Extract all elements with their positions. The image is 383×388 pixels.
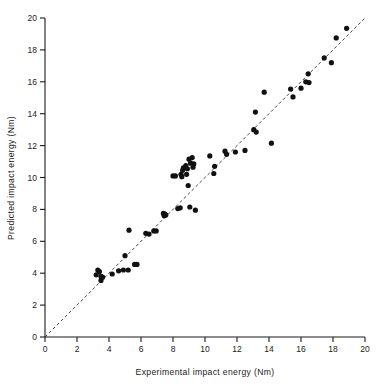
data-point: [233, 149, 238, 154]
data-point: [173, 173, 178, 178]
x-tick-label: 12: [232, 344, 242, 354]
data-point: [288, 86, 293, 91]
data-point: [185, 166, 190, 171]
data-point: [97, 269, 102, 274]
data-point: [116, 268, 121, 273]
data-point: [178, 205, 183, 210]
data-point: [224, 152, 229, 157]
data-point: [322, 55, 327, 60]
data-point: [193, 208, 198, 213]
data-point: [121, 267, 126, 272]
data-point: [306, 80, 311, 85]
parity-reference-line: [45, 18, 365, 337]
y-tick-label: 6: [32, 236, 37, 246]
x-tick-label: 4: [107, 344, 112, 354]
data-point: [187, 204, 192, 209]
data-point: [262, 90, 267, 95]
x-tick-label: 20: [360, 344, 370, 354]
data-point: [154, 228, 159, 233]
data-point: [254, 129, 259, 134]
data-point: [306, 71, 311, 76]
y-tick-label: 20: [28, 13, 38, 23]
data-point: [211, 171, 216, 176]
data-point: [110, 271, 115, 276]
y-tick-label: 10: [28, 173, 38, 183]
data-point: [190, 155, 195, 160]
data-point: [344, 26, 349, 31]
data-point: [329, 60, 334, 65]
y-tick-label: 2: [32, 300, 37, 310]
x-tick-label: 0: [43, 344, 48, 354]
data-point: [212, 164, 217, 169]
data-point: [100, 275, 105, 280]
data-point: [269, 141, 274, 146]
data-point: [191, 161, 196, 166]
data-point: [126, 267, 131, 272]
data-point: [334, 35, 339, 40]
data-point: [186, 183, 191, 188]
data-point: [163, 212, 168, 217]
y-axis-title: Predicted impact energy (Nm): [6, 116, 16, 240]
x-tick-label: 8: [171, 344, 176, 354]
scatter-plot-figure: 0246810121416182002468101214161820 Exper…: [0, 0, 383, 388]
y-tick-label: 14: [28, 109, 38, 119]
data-point: [290, 94, 295, 99]
x-tick-label: 14: [264, 344, 274, 354]
data-point: [184, 172, 189, 177]
data-point: [146, 232, 151, 237]
x-tick-label: 6: [139, 344, 144, 354]
data-point: [207, 153, 212, 158]
data-points-group: [94, 26, 350, 283]
y-tick-label: 12: [28, 141, 38, 151]
x-tick-label: 2: [75, 344, 80, 354]
y-tick-label: 18: [28, 45, 38, 55]
x-axis-title: Experimental impact energy (Nm): [136, 367, 275, 377]
y-tick-label: 16: [28, 77, 38, 87]
data-point: [122, 253, 127, 258]
y-tick-label: 8: [32, 204, 37, 214]
data-point: [242, 148, 247, 153]
x-tick-label: 18: [328, 344, 338, 354]
parity-line: [45, 18, 365, 337]
data-point: [253, 110, 258, 115]
data-point: [179, 174, 184, 179]
data-point: [134, 262, 139, 267]
y-tick-label: 0: [32, 332, 37, 342]
x-tick-label: 16: [296, 344, 306, 354]
data-point: [298, 86, 303, 91]
data-point: [126, 228, 131, 233]
x-tick-label: 10: [200, 344, 210, 354]
y-tick-label: 4: [32, 268, 37, 278]
chart-canvas: 0246810121416182002468101214161820 Exper…: [0, 0, 383, 388]
